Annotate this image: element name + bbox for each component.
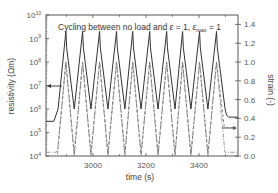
y-right-tick-label: 1.0	[244, 58, 256, 67]
y-right-tick-label: 0.2	[244, 133, 256, 142]
x-tick-label: 3000	[84, 161, 102, 170]
y-left-tick-label: 106	[29, 104, 41, 115]
x-tick-label: 3400	[190, 161, 208, 170]
chart: 1041051061071081091010 0.00.20.40.60.81.…	[0, 0, 278, 193]
y-left-tick-label: 105	[29, 127, 41, 138]
y-right-tick-label: 0.4	[244, 114, 256, 123]
y-left-tick-label: 107	[29, 80, 41, 91]
y-right-tick-label: 0.0	[244, 152, 256, 161]
y-right-tick-label: 0.6	[244, 96, 256, 105]
y-right-tick-label: 1.2	[244, 39, 256, 48]
y-left-tick-label: 1010	[27, 10, 42, 21]
plot-annotation: Cycling between no load and ε = 1, εmax …	[58, 22, 221, 33]
x-tick-label: 3200	[137, 161, 155, 170]
y-right-axis-label: strain (-)	[266, 74, 276, 106]
x-axis-label: time (s)	[126, 172, 155, 182]
plot-frame	[46, 15, 238, 156]
y-left-tick-label: 109	[29, 33, 41, 44]
series-group	[46, 31, 238, 156]
y-left-tick-label: 104	[29, 151, 41, 162]
y-left-tick-label: 108	[29, 57, 41, 68]
y-right-tick-label: 1.4	[244, 20, 256, 29]
y-right-tick-label: 0.8	[244, 77, 256, 86]
y-left-axis-label: resistivity (Ωm)	[6, 58, 16, 115]
resistivity-line	[46, 31, 238, 121]
